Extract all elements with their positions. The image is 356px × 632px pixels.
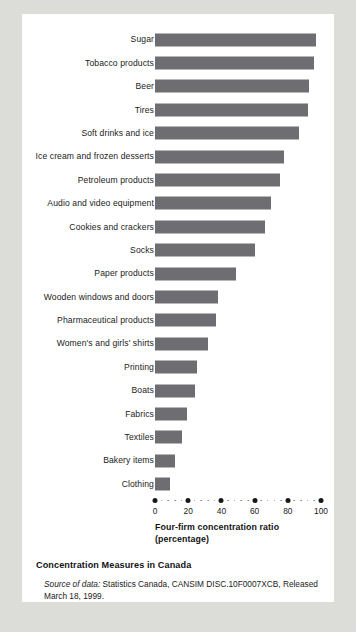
bar [155,290,218,303]
bar-category-label: Paper products [30,269,154,278]
bar-row: Boats [22,379,334,402]
bar-track [155,337,321,350]
x-axis-minor-tick-dot [314,500,316,502]
bar-track [155,80,321,93]
bar-track [155,431,321,444]
x-axis-minor-tick-dot [201,500,203,502]
x-axis-minor-tick-dot [234,500,236,502]
x-axis-minor-tick-dot [260,500,262,502]
bar-category-label: Printing [30,363,154,372]
bar-track [155,384,321,397]
bar-row: Audio and video equipment [22,192,334,215]
bar-category-label: Beer [30,82,154,91]
x-axis-major-tick-dot [186,498,191,503]
x-axis-minor-tick-dot [194,500,196,502]
bar-row: Wooden windows and doors [22,285,334,308]
bar-row: Printing [22,355,334,378]
figure-caption: Concentration Measures in Canada Source … [36,560,326,602]
bar-track [155,454,321,467]
bar [155,267,236,280]
bar [155,454,175,467]
bar-category-label: Socks [30,246,154,255]
x-axis-title: Four-firm concentration ratio (percentag… [155,522,345,546]
bar-category-label: Textiles [30,433,154,442]
x-axis-minor-tick-dot [294,500,296,502]
bar [155,431,182,444]
bar-category-label: Cookies and crackers [30,223,154,232]
caption-title: Concentration Measures in Canada [36,560,326,570]
bar [155,407,187,420]
x-axis-minor-tick-dot [267,500,269,502]
x-axis-tick-label: 60 [250,506,259,516]
bar-row: Socks [22,239,334,262]
bar-row: Beer [22,75,334,98]
bar-row: Cookies and crackers [22,215,334,238]
x-axis-major-tick-dot [285,498,290,503]
x-axis-tick-label: 80 [283,506,292,516]
x-axis-minor-tick-dot [214,500,216,502]
bar [155,337,208,350]
bar-track [155,197,321,210]
caption-source: Source of data: Statistics Canada, CANSI… [44,578,326,602]
bar-row: Paper products [22,262,334,285]
x-axis-minor-tick-dot [247,500,249,502]
bar-category-label: Pharmaceutical products [30,316,154,325]
bar-track [155,220,321,233]
bar [155,174,280,187]
bar-row: Fabrics [22,402,334,425]
bar-row: Bakery items [22,449,334,472]
bar-row: Soft drinks and ice [22,122,334,145]
bar-track [155,267,321,280]
bar-track [155,407,321,420]
bar [155,384,195,397]
x-axis-minor-tick-dot [274,500,276,502]
bar-track [155,57,321,70]
x-axis-tick-label: 40 [217,506,226,516]
bar-row: Petroleum products [22,168,334,191]
bar-track [155,127,321,140]
caption-source-lead: Source of data: [44,579,100,589]
x-axis-major-tick-dot [252,498,257,503]
bar-category-label: Wooden windows and doors [30,293,154,302]
x-axis-title-line1: Four-firm concentration ratio [155,522,345,534]
x-axis-minor-tick-dot [161,500,163,502]
bar-category-label: Bakery items [30,456,154,465]
bar [155,127,299,140]
bar-category-label: Audio and video equipment [30,199,154,208]
bar-row: Pharmaceutical products [22,309,334,332]
bar-category-label: Sugar [30,35,154,44]
bar-row: Tobacco products [22,51,334,74]
bar-category-label: Tobacco products [30,59,154,68]
bar [155,314,216,327]
bar-category-label: Tires [30,106,154,115]
bar [155,80,309,93]
bar-category-label: Soft drinks and ice [30,129,154,138]
x-axis-minor-tick-dot [307,500,309,502]
x-axis-tick-label: 0 [153,506,158,516]
bar-track [155,478,321,491]
bar-category-label: Petroleum products [30,176,154,185]
bar-track [155,361,321,374]
x-axis-minor-tick-dot [227,500,229,502]
bar [155,197,271,210]
bar [155,103,308,116]
x-axis-major-tick-dot [153,498,158,503]
bar-row: Textiles [22,426,334,449]
x-axis-major-tick-dot [219,498,224,503]
x-axis-minor-tick-dot [181,500,183,502]
bar [155,478,170,491]
bar-track [155,150,321,163]
bar [155,361,197,374]
x-axis-minor-tick-dot [167,500,169,502]
bar [155,150,284,163]
bar-track [155,290,321,303]
bar-category-label: Fabrics [30,410,154,419]
x-axis-tick-label: 100 [314,506,328,516]
bar-category-label: Clothing [30,480,154,489]
x-axis-minor-tick-dot [174,500,176,502]
bar [155,57,314,70]
bar [155,33,316,46]
x-axis-minor-tick-dot [207,500,209,502]
figure-card: SugarTobacco productsBeerTiresSoft drink… [22,14,334,602]
bar-track [155,174,321,187]
